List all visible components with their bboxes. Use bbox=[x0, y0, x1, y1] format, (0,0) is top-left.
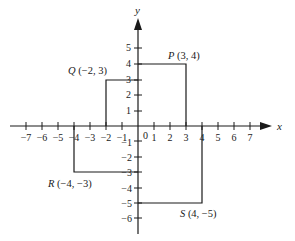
origin-label: 0 bbox=[143, 130, 148, 141]
svg-text:S (4, −5): S (4, −5) bbox=[180, 208, 217, 220]
svg-text:2: 2 bbox=[168, 132, 173, 143]
svg-text:1: 1 bbox=[126, 105, 131, 116]
svg-text:6: 6 bbox=[232, 132, 237, 143]
svg-text:−5: −5 bbox=[121, 198, 132, 209]
coordinate-plane-diagram: x y −7 −6 −5 −4 −3 −2 −1 1 2 3 4 5 6 7 0 bbox=[0, 0, 295, 241]
svg-text:−2: −2 bbox=[101, 132, 112, 143]
svg-text:1: 1 bbox=[152, 132, 157, 143]
svg-text:R (−4, −3): R (−4, −3) bbox=[47, 178, 92, 190]
svg-text:3: 3 bbox=[184, 132, 189, 143]
svg-text:−4: −4 bbox=[121, 183, 132, 194]
svg-text:−2: −2 bbox=[121, 152, 132, 163]
point-p-label: P (3, 4) bbox=[167, 50, 200, 62]
y-axis-label: y bbox=[134, 4, 140, 16]
svg-text:Q (−2, 3): Q (−2, 3) bbox=[68, 65, 107, 77]
svg-text:5: 5 bbox=[126, 42, 131, 53]
x-axis-arrow-icon bbox=[260, 122, 272, 130]
svg-text:2: 2 bbox=[126, 89, 131, 100]
svg-text:−6: −6 bbox=[37, 132, 48, 143]
x-axis-label: x bbox=[276, 120, 282, 132]
svg-text:7: 7 bbox=[248, 132, 253, 143]
point-q-label: Q (−2, 3) bbox=[68, 65, 107, 77]
point-p-projection bbox=[138, 64, 186, 126]
point-q-projection bbox=[106, 80, 138, 126]
svg-text:−3: −3 bbox=[85, 132, 96, 143]
y-axis-tick-labels-negative: −1 −2 −3 −4 −5 −6 bbox=[121, 137, 132, 224]
svg-text:−6: −6 bbox=[121, 213, 132, 224]
point-s-label: S (4, −5) bbox=[180, 208, 217, 220]
svg-text:−7: −7 bbox=[21, 132, 32, 143]
svg-text:−1: −1 bbox=[121, 137, 132, 148]
svg-text:5: 5 bbox=[216, 132, 221, 143]
y-axis-arrow-icon bbox=[134, 18, 142, 30]
point-r-label: R (−4, −3) bbox=[47, 178, 92, 190]
y-axis-tick-labels-positive: 1 2 3 4 5 bbox=[126, 42, 131, 116]
svg-text:−5: −5 bbox=[53, 132, 64, 143]
svg-text:P (3, 4): P (3, 4) bbox=[167, 50, 200, 62]
svg-text:4: 4 bbox=[126, 58, 131, 69]
